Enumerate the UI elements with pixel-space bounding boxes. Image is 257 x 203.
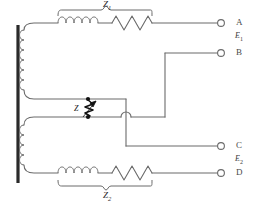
z-node-dot-bottom — [86, 115, 90, 119]
label-terminal-b: B — [236, 48, 242, 57]
terminal-c-circle[interactable] — [218, 143, 225, 150]
circuit-schematic-canvas — [0, 0, 257, 203]
z-node-dot-top — [86, 97, 90, 101]
label-z2-subscript: 2 — [108, 195, 111, 202]
label-emf-2: E2 — [235, 155, 243, 165]
primary-winding-coil — [20, 30, 25, 90]
terminal-a-circle[interactable] — [218, 20, 225, 27]
bottom-branch-resistor — [112, 166, 152, 180]
brace-z2 — [58, 180, 152, 190]
label-z1-subscript: 1 — [108, 4, 111, 11]
label-z-shunt: Z — [74, 105, 78, 113]
wire-upper-winding-to-shunt-top — [24, 90, 88, 99]
variable-impedance-z — [83, 97, 96, 119]
label-emf-1-subscript: 1 — [240, 36, 243, 42]
wire-lower-winding-to-bottom-branch — [24, 165, 58, 173]
terminal-b-circle[interactable] — [218, 50, 225, 57]
bottom-branch-inductor — [58, 167, 98, 173]
top-branch-inductor — [58, 17, 98, 23]
wire-lower-winding-to-shunt-bottom — [24, 117, 88, 125]
label-terminal-a: A — [236, 18, 243, 27]
label-z1: Z1 — [103, 0, 111, 11]
terminal-d-circle[interactable] — [218, 170, 225, 177]
label-emf-1: E1 — [235, 32, 243, 42]
secondary-winding-coil — [20, 125, 25, 165]
label-emf-2-subscript: 2 — [240, 159, 243, 165]
label-terminal-c: C — [236, 141, 242, 150]
label-terminal-d: D — [236, 168, 243, 177]
circuit-diagram: Z1 Z2 Z A B C D E1 E2 — [0, 0, 257, 203]
top-branch-resistor — [112, 16, 152, 30]
wire-upper-winding-to-top-branch — [24, 23, 58, 30]
label-z2: Z2 — [103, 191, 111, 202]
